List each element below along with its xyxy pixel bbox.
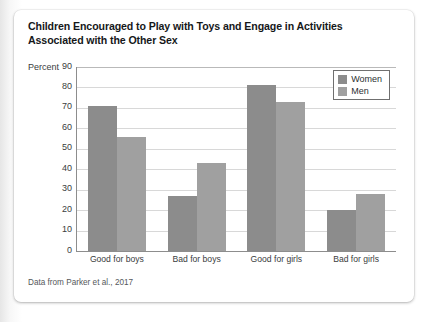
- y-axis-tick-label: 80: [62, 81, 72, 91]
- legend-label: Women: [351, 74, 382, 84]
- y-axis-title: Percent: [28, 62, 59, 72]
- x-axis-labels: Good for boysBad for boysGood for girlsB…: [77, 254, 396, 264]
- bar-men-2: [276, 102, 305, 251]
- bar-group: [77, 67, 157, 251]
- y-axis-tick-label: 50: [62, 142, 72, 152]
- y-axis-tick-label: 40: [62, 163, 72, 173]
- y-axis-tick-label: 60: [62, 122, 72, 132]
- bar-group: [157, 67, 237, 251]
- bar-men-1: [197, 163, 226, 251]
- bar-men-3: [356, 194, 385, 251]
- x-axis-label: Good for boys: [77, 254, 157, 264]
- y-axis-tick-label: 0: [67, 245, 72, 255]
- bar-women-0: [88, 106, 117, 251]
- figure-title-line-1: Children Encouraged to Play with Toys an…: [28, 20, 378, 34]
- y-axis-tick-label: 70: [62, 101, 72, 111]
- bar-men-0: [117, 137, 146, 251]
- bar-women-1: [168, 196, 197, 251]
- figure-title-line-2: Associated with the Other Sex: [28, 34, 378, 48]
- plot-area: 9080706050403020100 WomenMen: [76, 67, 396, 251]
- legend-swatch-icon: [338, 87, 347, 96]
- legend-item-men: Men: [338, 86, 382, 96]
- bar-group: [237, 67, 317, 251]
- x-axis-label: Good for girls: [237, 254, 317, 264]
- figure-title: Children Encouraged to Play with Toys an…: [28, 20, 378, 47]
- legend-item-women: Women: [338, 74, 382, 84]
- y-axis-tick-label: 10: [62, 224, 72, 234]
- chart-area: Percent 9080706050403020100 WomenMen Goo…: [28, 58, 402, 270]
- y-axis-tick-label: 90: [62, 61, 72, 71]
- gridline: [76, 251, 396, 252]
- y-axis-tick-label: 20: [62, 204, 72, 214]
- y-axis-tick-label: 30: [62, 183, 72, 193]
- source-note: Data from Parker et al., 2017: [28, 278, 133, 287]
- legend: WomenMen: [333, 70, 390, 100]
- bar-women-2: [247, 85, 276, 251]
- legend-swatch-icon: [338, 75, 347, 84]
- bar-women-3: [327, 210, 356, 251]
- figure-card: Children Encouraged to Play with Toys an…: [14, 10, 414, 302]
- x-axis-label: Bad for boys: [157, 254, 237, 264]
- legend-label: Men: [351, 86, 369, 96]
- x-axis-label: Bad for girls: [316, 254, 396, 264]
